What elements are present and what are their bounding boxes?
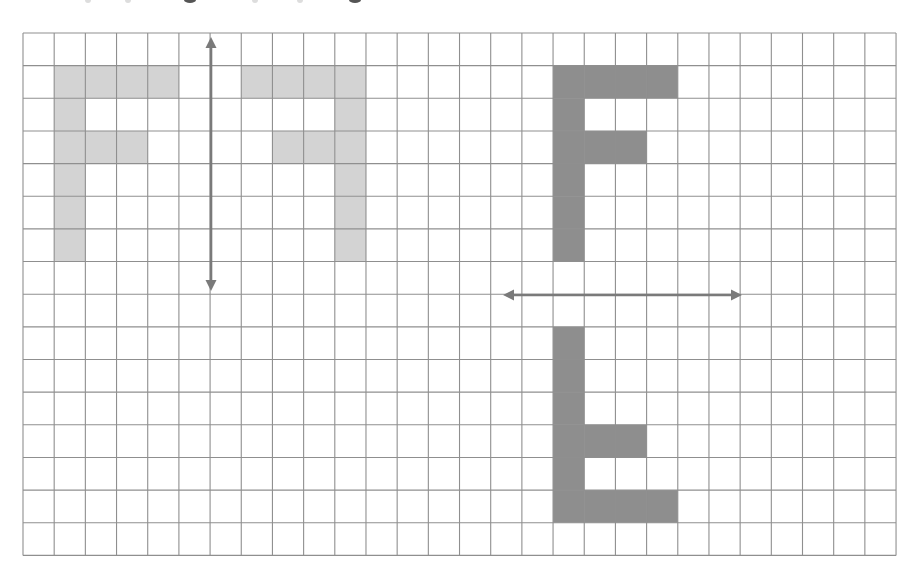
- shaded-cell: [553, 360, 584, 393]
- shaded-cell: [553, 229, 584, 262]
- shaded-cell: [615, 131, 646, 164]
- shaded-cell: [304, 131, 335, 164]
- shaded-cell: [54, 98, 85, 131]
- shaded-cell: [241, 66, 272, 99]
- horizontal-mirror-line: [503, 290, 742, 301]
- shaded-cell: [272, 131, 303, 164]
- shaded-cell: [553, 490, 584, 523]
- shaded-cell: [553, 196, 584, 229]
- shaded-cell: [335, 98, 366, 131]
- grid-lines: [23, 33, 896, 555]
- shaded-cell: [335, 229, 366, 262]
- shaded-cell: [335, 196, 366, 229]
- shaded-cell: [54, 131, 85, 164]
- reflection-diagram: [0, 0, 923, 576]
- shaded-cell: [615, 425, 646, 458]
- shaded-cell: [647, 490, 678, 523]
- shaded-cell: [117, 66, 148, 99]
- shaded-cell: [304, 66, 335, 99]
- shaded-cell: [54, 164, 85, 197]
- shaded-cell: [584, 425, 615, 458]
- shaded-cell: [553, 392, 584, 425]
- shaded-cell: [553, 457, 584, 490]
- arrow-left-icon: [503, 290, 514, 301]
- grid-diagram: [0, 0, 923, 576]
- shaded-cell: [335, 164, 366, 197]
- shaded-cell: [553, 327, 584, 360]
- shaded-cell: [85, 131, 116, 164]
- shaded-cell: [615, 66, 646, 99]
- shaded-cell: [584, 66, 615, 99]
- shaded-cell: [615, 490, 646, 523]
- cut-off-text-fragment: [0, 0, 923, 4]
- arrow-down-icon: [206, 280, 217, 291]
- shaded-cell: [584, 131, 615, 164]
- shaded-cell: [148, 66, 179, 99]
- arrow-up-icon: [206, 37, 217, 48]
- shaded-cell: [335, 66, 366, 99]
- shaded-cell: [272, 66, 303, 99]
- shaded-cell: [335, 131, 366, 164]
- shaded-cell: [553, 425, 584, 458]
- shaded-cell: [54, 66, 85, 99]
- shaded-cell: [54, 196, 85, 229]
- shaded-cell: [553, 66, 584, 99]
- shaded-cell: [553, 131, 584, 164]
- shaded-cell: [553, 164, 584, 197]
- shaded-cell: [584, 490, 615, 523]
- shaded-cell: [553, 98, 584, 131]
- shaded-cell: [54, 229, 85, 262]
- shaded-cell: [85, 66, 116, 99]
- shaded-cell: [117, 131, 148, 164]
- shaded-cell: [647, 66, 678, 99]
